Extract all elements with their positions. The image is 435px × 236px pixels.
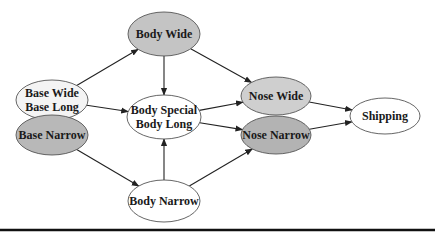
node-label: Body Wide: [136, 27, 193, 41]
node-label: Shipping: [362, 109, 408, 123]
node-label: Base Wide: [25, 86, 80, 100]
node-label: Body Long: [136, 117, 192, 131]
node-body-wide: Body Wide: [128, 12, 200, 56]
node-base-narrow: Base Narrow: [16, 115, 88, 155]
flow-diagram: Base WideBase LongBase NarrowBody WideBo…: [0, 0, 435, 236]
node-body-special-long: Body SpecialBody Long: [127, 95, 201, 139]
edge-base_narrow-to-body_narrow: [77, 150, 139, 187]
edges: [77, 49, 352, 186]
edge-body_wide-to-nose_wide: [191, 49, 252, 83]
node-nose-narrow: Nose Narrow: [241, 116, 311, 154]
node-label: Base Narrow: [19, 128, 86, 142]
node-body-narrow: Body Narrow: [128, 180, 200, 222]
node-label: Body Narrow: [129, 194, 199, 208]
edge-base_wide_long-to-body_special_long: [87, 105, 128, 111]
edge-body_narrow-to-nose_narrow: [189, 149, 252, 186]
node-nose-wide: Nose Wide: [241, 77, 311, 115]
edge-nose_wide-to-shipping: [309, 102, 352, 110]
node-label: Base Long: [25, 100, 79, 114]
node-label: Nose Narrow: [242, 128, 310, 142]
edge-nose_narrow-to-shipping: [309, 122, 352, 129]
node-label: Nose Wide: [249, 89, 304, 103]
node-shipping: Shipping: [350, 98, 420, 134]
node-base-wide-long: Base WideBase Long: [16, 80, 88, 120]
nodes: Base WideBase LongBase NarrowBody WideBo…: [16, 12, 420, 222]
edge-base_wide_long-to-body_wide: [77, 49, 138, 85]
edge-body_special_long-to-nose_wide: [199, 102, 243, 110]
edge-body_special_long-to-nose_narrow: [200, 123, 243, 130]
node-label: Body Special: [131, 103, 198, 117]
